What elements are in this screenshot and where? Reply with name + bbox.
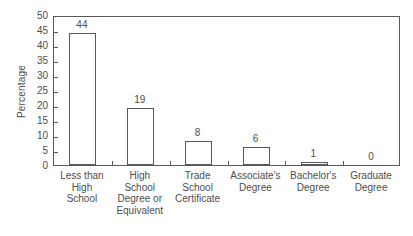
- y-axis-tick-label: 0: [8, 161, 48, 171]
- x-axis-category-label: Less thanHighSchool: [50, 170, 114, 205]
- x-axis-category-label: HighSchoolDegree orEquivalent: [108, 170, 172, 216]
- x-axis-category-label-line: Bachelor's: [281, 170, 345, 182]
- y-axis-tick-label: 30: [8, 71, 48, 81]
- y-axis-tick-label: 10: [8, 131, 48, 141]
- y-axis-tick-mark: [54, 32, 58, 33]
- x-axis-category-label-line: School: [50, 193, 114, 205]
- x-axis-category-label-line: Graduate: [339, 170, 403, 182]
- y-axis-tick-label: 40: [8, 41, 48, 51]
- bar-value-label: 0: [346, 152, 396, 162]
- y-axis-tick-label: 35: [8, 56, 48, 66]
- y-axis-tick-label: 5: [8, 146, 48, 156]
- x-axis-category-label: Associate'sDegree: [224, 170, 288, 193]
- x-axis-category-label-line: Associate's: [224, 170, 288, 182]
- x-axis-category-label: Bachelor'sDegree: [281, 170, 345, 193]
- x-axis-tick-mark: [228, 161, 229, 165]
- x-axis-category-label-line: Degree: [339, 182, 403, 194]
- y-axis-tick-mark: [54, 92, 58, 93]
- y-axis-tick-mark: [54, 122, 58, 123]
- x-axis-tick-mark: [285, 161, 286, 165]
- bar: [185, 141, 212, 165]
- y-axis-tick-label: 45: [8, 26, 48, 36]
- x-axis-category-label-line: High: [50, 182, 114, 194]
- x-axis-category-label-line: School: [166, 182, 230, 194]
- x-axis-category-label-line: High: [108, 170, 172, 182]
- x-axis-tick-mark: [343, 161, 344, 165]
- y-axis-tick-mark: [54, 107, 58, 108]
- x-axis-category-label-line: Certificate: [166, 193, 230, 205]
- y-axis-tick-label: 25: [8, 86, 48, 96]
- bar-value-label: 19: [115, 95, 165, 105]
- bar: [301, 162, 328, 165]
- x-axis-category-label-line: Degree: [281, 182, 345, 194]
- x-axis-category-label-line: Trade: [166, 170, 230, 182]
- y-axis-tick-label: 15: [8, 116, 48, 126]
- y-axis-tick-mark: [54, 152, 58, 153]
- bar-chart: Percentage 5045403530252015105044Less th…: [0, 0, 413, 236]
- y-axis-tick-label: 20: [8, 101, 48, 111]
- bar-value-label: 44: [57, 20, 107, 30]
- x-axis-category-label: GraduateDegree: [339, 170, 403, 193]
- x-axis-category-label-line: Equivalent: [108, 205, 172, 217]
- bar-value-label: 1: [288, 149, 338, 159]
- bar: [127, 108, 154, 165]
- bar: [243, 147, 270, 165]
- x-axis-tick-mark: [170, 161, 171, 165]
- y-axis-tick-mark: [54, 62, 58, 63]
- bar: [69, 33, 96, 165]
- y-axis-tick-label: 50: [8, 11, 48, 21]
- y-axis-tick-mark: [54, 47, 58, 48]
- x-axis-category-label-line: Less than: [50, 170, 114, 182]
- plot-area: [53, 16, 400, 166]
- x-axis-category-label-line: School: [108, 182, 172, 194]
- x-axis-category-label-line: Degree or: [108, 193, 172, 205]
- bar-value-label: 8: [173, 128, 223, 138]
- x-axis-category-label: TradeSchoolCertificate: [166, 170, 230, 205]
- x-axis-tick-mark: [112, 161, 113, 165]
- y-axis-tick-mark: [54, 137, 58, 138]
- x-axis-category-label-line: Degree: [224, 182, 288, 194]
- y-axis-tick-mark: [54, 77, 58, 78]
- bar-value-label: 6: [230, 134, 280, 144]
